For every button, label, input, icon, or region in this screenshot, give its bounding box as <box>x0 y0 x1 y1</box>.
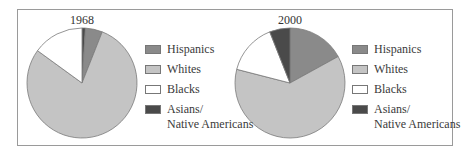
swatch-asians <box>145 105 161 114</box>
swatch-blacks <box>352 85 368 94</box>
legend-label-line2: Native Americans <box>167 117 253 132</box>
legend-item-whites: Whites <box>352 62 408 77</box>
legend-label: Whites <box>374 62 408 77</box>
swatch-whites <box>145 65 161 74</box>
legend-label: Asians/ <box>167 102 253 117</box>
pie-1968 <box>27 28 137 138</box>
legend-label: Asians/ <box>374 102 460 117</box>
swatch-blacks <box>145 85 161 94</box>
pie-title-2000: 2000 <box>260 13 320 28</box>
legend-label-multiline: Asians/ Native Americans <box>374 102 460 132</box>
legend-label-line2: Native Americans <box>374 117 460 132</box>
legend-item-blacks: Blacks <box>145 82 200 97</box>
swatch-asians <box>352 105 368 114</box>
legend-item-asians: Asians/ Native Americans <box>145 102 253 132</box>
legend-label: Hispanics <box>167 42 214 57</box>
legend-label-multiline: Asians/ Native Americans <box>167 102 253 132</box>
legend-item-blacks: Blacks <box>352 82 407 97</box>
legend-label: Blacks <box>167 82 200 97</box>
swatch-hispanics <box>145 45 161 54</box>
swatch-hispanics <box>352 45 368 54</box>
legend-item-whites: Whites <box>145 62 201 77</box>
legend-label: Whites <box>167 62 201 77</box>
swatch-whites <box>352 65 368 74</box>
legend-label: Hispanics <box>374 42 421 57</box>
legend-item-hispanics: Hispanics <box>352 42 421 57</box>
legend-item-hispanics: Hispanics <box>145 42 214 57</box>
legend-label: Blacks <box>374 82 407 97</box>
legend-item-asians: Asians/ Native Americans <box>352 102 460 132</box>
